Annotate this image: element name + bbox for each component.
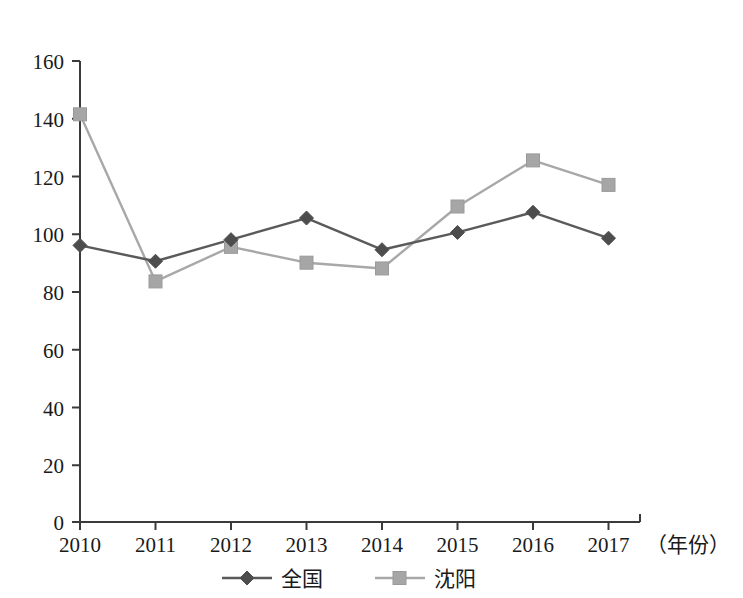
x-tick-label: 2012 bbox=[210, 533, 252, 557]
y-tick-label: 100 bbox=[33, 223, 65, 247]
data-point-marker bbox=[73, 238, 87, 252]
data-point-marker bbox=[527, 154, 540, 167]
legend-item-national[interactable]: 全国 bbox=[222, 567, 323, 591]
data-point-marker bbox=[375, 243, 389, 257]
data-point-marker bbox=[451, 200, 464, 213]
y-tick-label: 120 bbox=[33, 166, 65, 190]
y-tick-label: 0 bbox=[54, 511, 65, 535]
y-tick-label: 20 bbox=[43, 454, 64, 478]
x-tick-label: 2015 bbox=[437, 533, 479, 557]
line-chart: 160 140 120 100 80 60 40 20 0 2010 2011 bbox=[0, 0, 743, 598]
chart-legend: 全国 沈阳 bbox=[222, 567, 476, 591]
x-tick-label: 2011 bbox=[135, 533, 176, 557]
y-tick-label: 140 bbox=[33, 108, 65, 132]
data-point-marker bbox=[451, 225, 465, 239]
diamond-marker-icon bbox=[240, 571, 254, 585]
x-axis-caption: （年份） bbox=[646, 533, 730, 557]
chart-canvas: 160 140 120 100 80 60 40 20 0 2010 2011 bbox=[0, 0, 743, 598]
data-point-marker bbox=[149, 275, 162, 288]
data-point-marker bbox=[526, 205, 540, 219]
x-tick-label: 2016 bbox=[512, 533, 554, 557]
y-axis-ticks bbox=[72, 61, 80, 522]
series-markers-national bbox=[73, 205, 616, 268]
y-tick-label: 60 bbox=[43, 339, 64, 363]
x-tick-label: 2013 bbox=[286, 533, 328, 557]
x-tick-label: 2014 bbox=[361, 533, 404, 557]
legend-item-shenyang[interactable]: 沈阳 bbox=[375, 567, 476, 591]
legend-label-national: 全国 bbox=[281, 567, 323, 591]
x-axis-tick-labels: 2010 2011 2012 2013 2014 2015 2016 2017 bbox=[59, 533, 630, 557]
x-tick-label: 2010 bbox=[59, 533, 101, 557]
x-tick-label: 2017 bbox=[588, 533, 630, 557]
data-point-marker bbox=[602, 178, 615, 191]
legend-label-shenyang: 沈阳 bbox=[434, 567, 476, 591]
data-point-marker bbox=[300, 256, 313, 269]
data-point-marker bbox=[602, 231, 616, 245]
series-line-national bbox=[80, 212, 609, 261]
data-point-marker bbox=[376, 262, 389, 275]
y-tick-label: 160 bbox=[33, 50, 65, 74]
data-point-marker bbox=[149, 254, 163, 268]
data-point-marker bbox=[300, 211, 314, 225]
y-tick-label: 40 bbox=[43, 397, 64, 421]
y-axis-tick-labels: 160 140 120 100 80 60 40 20 0 bbox=[33, 50, 65, 535]
series-line-shenyang bbox=[80, 114, 609, 281]
data-point-marker bbox=[74, 108, 87, 121]
y-tick-label: 80 bbox=[43, 281, 64, 305]
square-marker-icon bbox=[393, 572, 406, 585]
